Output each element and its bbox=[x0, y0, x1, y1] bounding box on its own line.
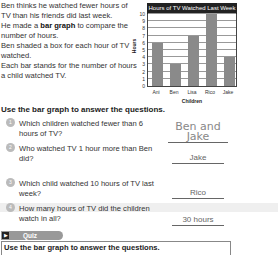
question-1: 1 Which children watched fewer than 6 ho… bbox=[0, 118, 278, 140]
intro-line-4: Each bar stands for the number of hours … bbox=[1, 61, 137, 80]
bar-ben bbox=[170, 64, 181, 86]
intro-text: Ben thinks he watched fewer hours of TV … bbox=[1, 1, 139, 81]
plot-area bbox=[147, 14, 237, 87]
y-tick-label: 7 bbox=[137, 33, 145, 39]
y-tick-label: 0 bbox=[137, 83, 145, 89]
question-number-icon: 4 bbox=[6, 203, 15, 212]
gridline bbox=[148, 13, 236, 14]
bar-graph-term: bar graph bbox=[40, 21, 75, 30]
y-tick-label: 2 bbox=[137, 69, 145, 75]
y-tick-label: 1 bbox=[137, 76, 145, 82]
bar-chart: Hours of TV Watched Last Week Hours 0123… bbox=[137, 3, 237, 103]
intro-line-3: Ben shaded a box for each hour of TV wat… bbox=[1, 41, 129, 60]
x-tick-label: Jake bbox=[219, 89, 237, 95]
answer-field[interactable]: Ben and Jake bbox=[168, 122, 228, 143]
bar-rico bbox=[206, 14, 217, 86]
y-tick-label: 6 bbox=[137, 40, 145, 46]
question-text: Which children watched fewer than 6 hour… bbox=[19, 119, 159, 139]
x-tick-label: Ben bbox=[165, 89, 183, 95]
bar-ani bbox=[152, 43, 163, 86]
x-tick-label: Lisa bbox=[183, 89, 201, 95]
bar-jake bbox=[224, 57, 235, 86]
play-icon: ▶ bbox=[2, 232, 9, 239]
x-tick-label: Rico bbox=[201, 89, 219, 95]
question-4: 4 How many hours of TV did the children … bbox=[0, 203, 278, 227]
answer-field[interactable]: Rico bbox=[172, 188, 224, 199]
question-3: 3 Which child watched 10 hours of TV las… bbox=[0, 178, 278, 200]
question-2: 2 Who watched TV 1 hour more than Ben di… bbox=[0, 143, 278, 165]
y-tick-label: 5 bbox=[137, 47, 145, 53]
intro-line-1: Ben thinks he watched fewer hours of TV … bbox=[1, 1, 128, 20]
gridline bbox=[148, 20, 236, 21]
question-text: How many hours of TV did the children wa… bbox=[19, 204, 159, 224]
answer-field[interactable]: Jake bbox=[172, 153, 224, 164]
question-number-icon: 1 bbox=[6, 118, 15, 127]
y-tick-label: 4 bbox=[137, 54, 145, 60]
bar-lisa bbox=[188, 36, 199, 86]
y-tick-label: 8 bbox=[137, 25, 145, 31]
question-text: Who watched TV 1 hour more than Ben did? bbox=[19, 144, 159, 164]
answer-field[interactable]: 30 hours bbox=[172, 215, 224, 226]
quiz-tab[interactable]: ▶ Quiz bbox=[1, 231, 63, 240]
y-tick-label: 9 bbox=[137, 18, 145, 24]
y-tick-label: 10 bbox=[137, 11, 145, 17]
question-number-icon: 2 bbox=[6, 143, 15, 152]
question-text: Which child watched 10 hours of TV last … bbox=[19, 179, 159, 199]
quiz-instructions: Use the bar graph to answer the question… bbox=[1, 241, 231, 255]
question-number-icon: 3 bbox=[6, 178, 15, 187]
gridline bbox=[148, 27, 236, 28]
quiz-label: Quiz bbox=[23, 231, 37, 240]
x-tick-label: Ani bbox=[147, 89, 165, 95]
x-axis-label: Children bbox=[147, 98, 237, 104]
questions-instructions: Use the bar graph to answer the question… bbox=[1, 105, 165, 114]
y-tick-label: 3 bbox=[137, 61, 145, 67]
